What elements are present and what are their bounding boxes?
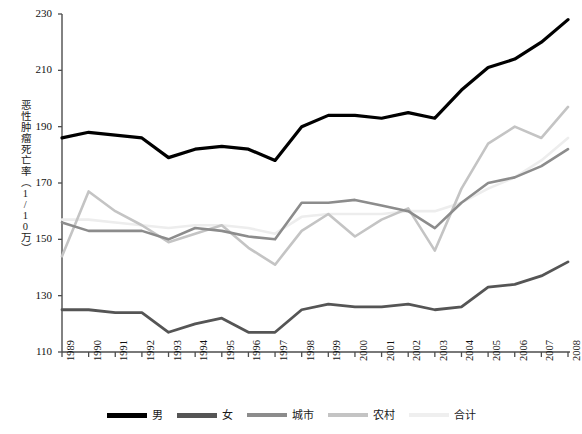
x-tick-label: 1998 xyxy=(306,340,317,361)
x-tick-label: 2004 xyxy=(465,340,476,361)
x-tick-label: 1997 xyxy=(279,340,290,361)
legend-label: 农村 xyxy=(373,410,395,421)
x-tick-label: 2005 xyxy=(492,340,503,361)
x-tick-label: 2000 xyxy=(359,340,370,361)
legend-label: 合计 xyxy=(454,410,476,421)
series-line xyxy=(62,138,568,234)
y-tick-label: 170 xyxy=(20,177,52,188)
plot-area xyxy=(0,0,582,434)
x-tick-label: 1989 xyxy=(66,340,77,361)
chart-legend: 男女城市农村合计 xyxy=(0,404,582,426)
legend-swatch-line-icon xyxy=(177,413,217,418)
legend-swatch-line-icon xyxy=(247,413,287,417)
legend-swatch-line-icon xyxy=(107,413,147,418)
x-tick-label: 1996 xyxy=(252,340,263,361)
x-tick-label: 2006 xyxy=(519,340,530,361)
legend-label: 女 xyxy=(222,410,233,421)
y-tick-label: 150 xyxy=(20,233,52,244)
series-line xyxy=(62,20,568,161)
y-tick-label: 230 xyxy=(20,8,52,19)
x-tick-label: 1994 xyxy=(199,340,210,361)
series-line xyxy=(62,262,568,332)
x-tick-label: 1991 xyxy=(119,340,130,361)
y-tick-label: 110 xyxy=(20,346,52,357)
x-tick-label: 1999 xyxy=(332,340,343,361)
x-tick-label: 1992 xyxy=(146,340,157,361)
legend-item[interactable]: 女 xyxy=(177,410,233,421)
y-tick-label: 130 xyxy=(20,290,52,301)
x-tick-label: 2003 xyxy=(439,340,450,361)
line-chart: 恶性肿瘤死亡率（1/10万） 110130150170190210230 198… xyxy=(0,0,582,434)
x-tick-label: 2007 xyxy=(545,340,556,361)
legend-item[interactable]: 男 xyxy=(107,410,163,421)
x-tick-label: 1990 xyxy=(93,340,104,361)
legend-item[interactable]: 合计 xyxy=(409,410,476,421)
legend-label: 男 xyxy=(152,410,163,421)
y-tick-label: 210 xyxy=(20,64,52,75)
x-tick-label: 1995 xyxy=(226,340,237,361)
legend-item[interactable]: 农村 xyxy=(328,410,395,421)
series-lines xyxy=(62,20,568,333)
x-tick-label: 2001 xyxy=(386,340,397,361)
legend-item[interactable]: 城市 xyxy=(247,410,314,421)
x-tick-label: 2002 xyxy=(412,340,423,361)
x-tick-label: 2008 xyxy=(572,340,582,361)
legend-label: 城市 xyxy=(292,410,314,421)
legend-swatch-line-icon xyxy=(328,413,368,417)
legend-swatch-line-icon xyxy=(409,413,449,417)
x-tick-label: 1993 xyxy=(173,340,184,361)
y-tick-label: 190 xyxy=(20,121,52,132)
